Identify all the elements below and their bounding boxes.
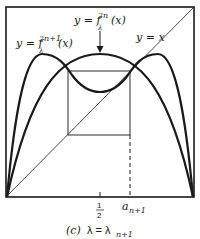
label-f-2n-plus-1: y = f 2n+1 λ (x) <box>15 34 73 55</box>
figure-caption: (c) λ = λ n+1 <box>66 224 133 239</box>
curve-f-2n-plus-1 <box>7 54 193 197</box>
svg-text:λ: λ <box>97 24 102 32</box>
tick-label-a-n1: a n+1 <box>122 200 146 215</box>
bifurcation-figure: y = f 2n λ (x) y = f 2n+1 λ (x) y = x 1 … <box>0 0 200 239</box>
label-f-2n: y = f 2n λ (x) <box>73 11 126 32</box>
label-identity: y = x <box>135 31 165 44</box>
svg-text:n+1: n+1 <box>116 230 133 239</box>
svg-text:n+1: n+1 <box>129 206 146 215</box>
svg-text:2n: 2n <box>97 11 108 20</box>
curve-f-2n <box>7 54 193 197</box>
svg-text:λ = λ: λ = λ <box>87 224 111 236</box>
svg-text:2: 2 <box>97 211 102 220</box>
tick-label-half: 1 2 <box>96 201 104 220</box>
svg-text:(x): (x) <box>111 14 126 27</box>
arrow-head-icon <box>97 46 104 53</box>
svg-text:λ: λ <box>38 47 43 55</box>
svg-text:(x): (x) <box>58 37 73 50</box>
svg-text:1: 1 <box>97 201 102 210</box>
svg-text:a: a <box>122 200 129 213</box>
svg-text:(c): (c) <box>66 224 81 237</box>
